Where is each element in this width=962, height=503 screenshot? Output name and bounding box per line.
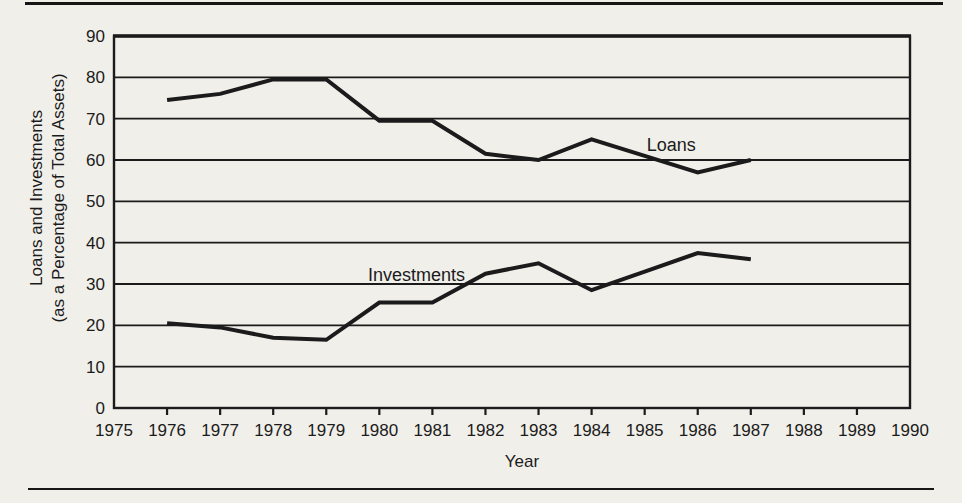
x-tick-label-1976: 1976 bbox=[148, 421, 186, 440]
loans-label: Loans bbox=[647, 135, 696, 155]
x-tick-label-1988: 1988 bbox=[785, 421, 823, 440]
y-tick-label-30: 30 bbox=[86, 275, 105, 294]
y-tick-label-60: 60 bbox=[86, 151, 105, 170]
figure-page: 1975197619771978197919801981198219831984… bbox=[0, 0, 962, 503]
line-chart: 1975197619771978197919801981198219831984… bbox=[0, 0, 962, 503]
x-tick-label-1990: 1990 bbox=[891, 421, 929, 440]
y-tick-label-80: 80 bbox=[86, 68, 105, 87]
x-tick-label-1975: 1975 bbox=[95, 421, 133, 440]
x-tick-label-1983: 1983 bbox=[520, 421, 558, 440]
y-tick-label-70: 70 bbox=[86, 110, 105, 129]
gridlines bbox=[114, 77, 910, 366]
y-axis-title-line1: Loans and Investments bbox=[27, 110, 46, 286]
y-axis-title-line2: (as a Percentage of Total Assets) bbox=[49, 73, 68, 322]
y-tick-label-20: 20 bbox=[86, 316, 105, 335]
x-axis-title: Year bbox=[505, 452, 540, 471]
y-axis-tick-labels: 0102030405060708090 bbox=[86, 27, 105, 418]
y-tick-label-50: 50 bbox=[86, 192, 105, 211]
x-tick-label-1982: 1982 bbox=[467, 421, 505, 440]
y-tick-label-0: 0 bbox=[96, 399, 105, 418]
y-tick-label-90: 90 bbox=[86, 27, 105, 46]
x-tick-label-1986: 1986 bbox=[679, 421, 717, 440]
x-tick-label-1984: 1984 bbox=[573, 421, 611, 440]
bottom-rule bbox=[28, 488, 934, 490]
x-axis-tick-labels: 1975197619771978197919801981198219831984… bbox=[95, 421, 929, 440]
y-tick-label-40: 40 bbox=[86, 234, 105, 253]
x-tick-label-1978: 1978 bbox=[254, 421, 292, 440]
investments-label: Investments bbox=[368, 265, 465, 285]
x-tick-label-1979: 1979 bbox=[307, 421, 345, 440]
x-tick-label-1977: 1977 bbox=[201, 421, 239, 440]
x-tick-label-1989: 1989 bbox=[838, 421, 876, 440]
x-tick-label-1981: 1981 bbox=[413, 421, 451, 440]
y-tick-label-10: 10 bbox=[86, 358, 105, 377]
x-tick-label-1985: 1985 bbox=[626, 421, 664, 440]
x-tick-label-1980: 1980 bbox=[360, 421, 398, 440]
x-tick-label-1987: 1987 bbox=[732, 421, 770, 440]
loans-line bbox=[167, 79, 751, 172]
